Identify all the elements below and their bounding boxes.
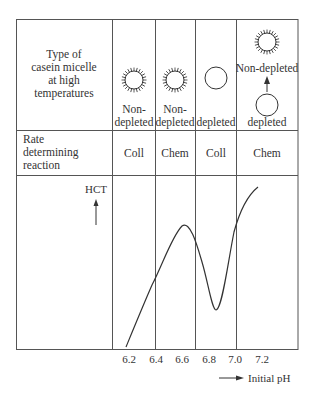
column-1-nondepleted: Non- depleted Coll: [115, 68, 154, 160]
svg-text:reaction: reaction: [23, 159, 60, 171]
svg-text:Initial pH: Initial pH: [248, 372, 291, 384]
svg-text:Rate: Rate: [23, 133, 44, 145]
svg-text:depleted: depleted: [197, 116, 236, 129]
row-header-micelle-type: Type of casein micelle at high temperatu…: [31, 48, 96, 100]
svg-text:temperatures: temperatures: [34, 87, 94, 100]
reaction-label: Coll: [124, 147, 144, 159]
reaction-label: Coll: [206, 147, 226, 159]
hct-curve: [126, 187, 258, 347]
plain-micelle-icon: [256, 94, 278, 116]
svg-text:depleted: depleted: [115, 116, 154, 129]
hairy-micelle-icon: [122, 68, 147, 93]
plain-micelle-icon: [205, 67, 227, 89]
svg-text:6.6: 6.6: [175, 353, 189, 365]
hairy-micelle-icon: [255, 30, 280, 55]
hairy-micelle-icon: [163, 68, 188, 93]
svg-text:determining: determining: [23, 146, 79, 159]
row-header-rate-reaction: Rate determining reaction: [23, 133, 79, 171]
svg-text:depleted: depleted: [248, 116, 287, 129]
column-2-nondepleted: Non- depleted Chem: [156, 68, 195, 160]
svg-text:Non-: Non-: [163, 103, 187, 115]
svg-text:6.8: 6.8: [202, 353, 216, 365]
x-axis-ticks: 6.2 6.4 6.6 6.8 7.0 7.2: [122, 353, 269, 365]
reaction-label: Chem: [161, 147, 189, 159]
svg-text:7.0: 7.0: [228, 353, 242, 365]
svg-text:casein micelle: casein micelle: [31, 61, 96, 73]
y-axis-label: HCT: [85, 183, 107, 225]
svg-text:Type of: Type of: [46, 48, 81, 61]
arrow-up-icon: [264, 76, 270, 92]
arrow-up-icon: [94, 199, 99, 206]
reaction-label: Chem: [253, 147, 281, 159]
svg-text:7.2: 7.2: [255, 353, 269, 365]
casein-hct-diagram: Type of casein micelle at high temperatu…: [0, 0, 314, 401]
svg-text:HCT: HCT: [85, 183, 107, 195]
column-3-depleted: depleted Coll: [197, 67, 236, 159]
column-4-transition: Non-depleted depleted Chem: [236, 30, 299, 160]
svg-text:depleted: depleted: [156, 116, 195, 129]
svg-text:Non-: Non-: [122, 103, 146, 115]
svg-text:6.2: 6.2: [122, 353, 136, 365]
svg-text:at high: at high: [48, 74, 80, 87]
svg-text:6.4: 6.4: [149, 353, 163, 365]
arrow-right-icon: [236, 376, 244, 381]
svg-text:Non-depleted: Non-depleted: [236, 62, 299, 75]
x-axis-label: Initial pH: [219, 372, 291, 384]
